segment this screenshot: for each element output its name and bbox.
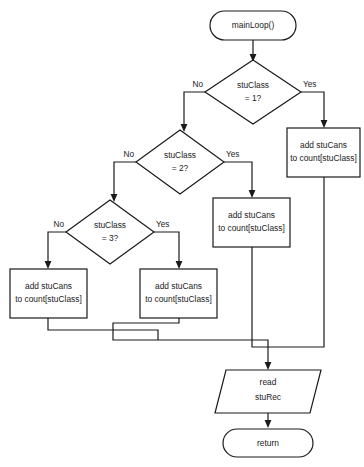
edge-decision3-no [48, 232, 66, 265]
node-decision-stuclass-1[interactable]: stuClass = 1? [205, 60, 301, 124]
edge-decision1-no [184, 92, 205, 128]
decision1-shape [205, 60, 301, 124]
decision1-label-line2: = 1? [245, 93, 262, 103]
arrowhead-read-to-end [265, 420, 272, 428]
node-start[interactable]: mainLoop() [210, 11, 296, 40]
process2-label-line1: add stuCans [228, 210, 275, 220]
io-read-label-line2: stuRec [255, 392, 281, 402]
arrowhead-merge-to-read [265, 362, 272, 370]
decision3-shape [66, 200, 154, 264]
decision3-no-label: No [54, 220, 65, 229]
process2-label-line2: to count[stuClass] [218, 223, 285, 233]
arrowhead-decision3-yes [176, 261, 183, 269]
edge-decision2-yes [224, 162, 252, 194]
node-io-read-sturec[interactable]: read stuRec [215, 370, 321, 413]
decision2-shape [136, 130, 224, 194]
decision2-label-line2: = 2? [172, 163, 189, 173]
node-process-add-stucans-1[interactable]: add stuCans to count[stuClass] [287, 128, 360, 177]
decision2-no-label: No [124, 150, 135, 159]
arrowhead-decision1-yes [321, 120, 328, 128]
decision3-label-line1: stuClass [94, 220, 126, 230]
process3-label-line2: to count[stuClass] [15, 294, 82, 304]
decision2-label-line1: stuClass [164, 150, 196, 160]
arrowhead-decision2-yes [249, 190, 256, 198]
decision1-label-line1: stuClass [237, 80, 269, 90]
flowchart-canvas: mainLoop() stuClass = 1? No Yes stuClass… [0, 0, 364, 467]
decision1-yes-label: Yes [303, 80, 316, 89]
edge-process2-merge [252, 247, 268, 347]
process1-label-line1: add stuCans [300, 140, 347, 150]
node-decision-stuclass-2[interactable]: stuClass = 2? [136, 130, 224, 194]
decision3-label-line2: = 3? [102, 233, 119, 243]
node-process-add-stucans-3[interactable]: add stuCans to count[stuClass] [10, 269, 87, 318]
edge-decision3-yes [154, 232, 179, 265]
node-end-return[interactable]: return [223, 429, 313, 457]
process3-label-line1: add stuCans [25, 281, 72, 291]
edge-process4-merge [113, 318, 268, 347]
flowchart-svg: mainLoop() stuClass = 1? No Yes stuClass… [0, 0, 364, 467]
decision1-no-label: No [193, 80, 204, 89]
node-decision-stuclass-3[interactable]: stuClass = 3? [66, 200, 154, 264]
arrowhead-decision3-no [45, 261, 52, 269]
edge-decision2-no [114, 162, 136, 198]
edge-process3-merge [48, 318, 158, 340]
decision3-yes-label: Yes [156, 220, 169, 229]
io-read-label-line1: read [260, 377, 277, 387]
terminator-end-label: return [257, 438, 279, 448]
process4-label-line1: add stuCans [155, 281, 202, 291]
node-process-add-stucans-4[interactable]: add stuCans to count[stuClass] [140, 269, 217, 318]
terminator-start-label: mainLoop() [232, 20, 275, 30]
node-process-add-stucans-2[interactable]: add stuCans to count[stuClass] [213, 198, 290, 247]
process4-label-line2: to count[stuClass] [145, 294, 212, 304]
edge-decision1-yes [301, 92, 324, 124]
process1-label-line2: to count[stuClass] [290, 153, 357, 163]
decision2-yes-label: Yes [226, 150, 239, 159]
